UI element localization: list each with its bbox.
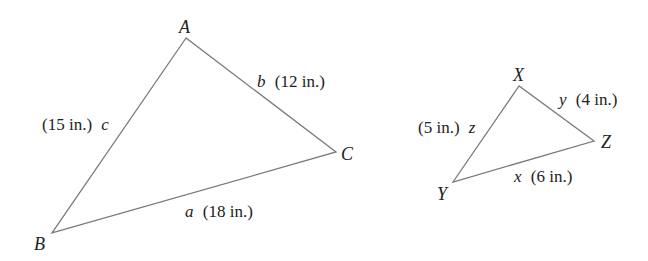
side-b-length: (12 in.)	[275, 72, 325, 91]
side-label-a: a (18 in.)	[185, 202, 253, 221]
vertex-label-a: A	[178, 17, 191, 37]
similar-triangles-diagram: A B C (15 in.) c b (12 in.) a (18 in.) X…	[0, 0, 648, 261]
side-label-y: y (4 in.)	[557, 90, 617, 109]
side-c-length: (15 in.)	[42, 115, 92, 134]
side-x-length: (6 in.)	[531, 167, 573, 186]
side-label-x: x (6 in.)	[513, 167, 572, 186]
triangle-xyz: X Y Z (5 in.) z y (4 in.) x (6 in.)	[418, 65, 617, 204]
vertex-label-z: Z	[601, 132, 612, 152]
side-z-length: (5 in.)	[418, 118, 460, 137]
side-y-var: y	[557, 90, 567, 109]
side-a-var: a	[185, 202, 194, 221]
side-c-var: c	[101, 115, 109, 134]
vertex-label-y: Y	[437, 184, 449, 204]
side-z-var: z	[468, 118, 476, 137]
vertex-label-b: B	[34, 234, 45, 254]
vertex-label-x: X	[512, 65, 525, 85]
triangle-abc: A B C (15 in.) c b (12 in.) a (18 in.)	[34, 17, 354, 254]
side-x-var: x	[513, 167, 522, 186]
vertex-label-c: C	[341, 144, 354, 164]
side-a-length: (18 in.)	[203, 202, 253, 221]
side-label-c: (15 in.) c	[42, 115, 109, 134]
side-b-var: b	[257, 72, 266, 91]
side-y-length: (4 in.)	[576, 90, 618, 109]
side-label-b: b (12 in.)	[257, 72, 325, 91]
side-label-z: (5 in.) z	[418, 118, 476, 137]
